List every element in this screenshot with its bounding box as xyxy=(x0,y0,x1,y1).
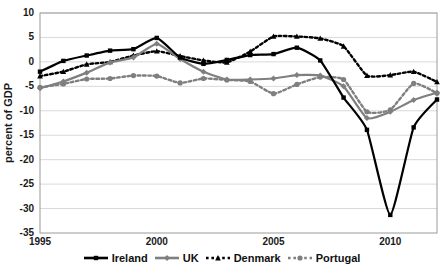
data-point-marker xyxy=(61,59,65,63)
data-point-marker xyxy=(154,73,159,78)
data-point-marker xyxy=(178,55,182,59)
legend-swatch-denmark xyxy=(205,252,231,264)
y-axis-tick-label: -5 xyxy=(0,81,34,91)
legend-swatch-portugal xyxy=(287,252,313,264)
data-point-marker xyxy=(435,97,439,101)
data-point-marker xyxy=(93,256,97,260)
data-point-marker xyxy=(85,53,89,57)
x-axis-tick-label: 2010 xyxy=(360,236,420,247)
y-axis-tick-label: 10 xyxy=(0,8,34,18)
x-axis-tick-label: 2005 xyxy=(244,236,304,247)
data-point-marker xyxy=(107,76,112,81)
data-point-marker xyxy=(365,128,369,132)
data-point-marker xyxy=(201,62,205,66)
data-point-marker xyxy=(364,109,369,114)
y-axis-tick-label: 0 xyxy=(0,57,34,67)
data-point-marker xyxy=(248,53,252,57)
data-point-marker xyxy=(341,77,346,82)
plot-background xyxy=(40,13,437,233)
y-axis-title: percent of GDP xyxy=(2,58,14,188)
data-point-marker xyxy=(38,69,42,73)
data-point-marker xyxy=(155,36,159,40)
data-point-marker xyxy=(178,80,183,85)
data-point-marker xyxy=(411,81,416,86)
data-point-marker xyxy=(341,95,345,99)
data-point-marker xyxy=(271,91,276,96)
x-axis-tick-label: 2000 xyxy=(127,236,187,247)
data-point-marker xyxy=(271,52,275,56)
legend-label-portugal: Portugal xyxy=(316,252,361,264)
data-point-marker xyxy=(201,76,206,81)
data-point-marker xyxy=(84,76,89,81)
legend-item-portugal[interactable]: Portugal xyxy=(287,252,361,264)
chart-figure: percent of GDP 1050-5-10-15-20-25-30-35 … xyxy=(0,0,443,276)
y-axis-tick-label: -10 xyxy=(0,106,34,116)
legend-label-uk: UK xyxy=(183,252,199,264)
data-point-marker xyxy=(108,48,112,52)
legend-swatch-uk xyxy=(154,252,180,264)
legend-item-denmark[interactable]: Denmark xyxy=(205,252,281,264)
legend-label-ireland: Ireland xyxy=(112,252,148,264)
y-axis-tick-label: -30 xyxy=(0,204,34,214)
y-axis-tick-label: 5 xyxy=(0,32,34,42)
data-point-marker xyxy=(131,73,136,78)
y-axis-tick-label: -15 xyxy=(0,130,34,140)
legend-swatch-ireland xyxy=(83,252,109,264)
y-axis-title-wrap: percent of GDP xyxy=(0,60,16,190)
data-point-marker xyxy=(131,47,135,51)
y-axis-tick-label: -20 xyxy=(0,155,34,165)
y-axis-tick-label: -25 xyxy=(0,179,34,189)
data-point-marker xyxy=(295,46,299,50)
data-point-marker xyxy=(297,255,302,260)
legend-item-uk[interactable]: UK xyxy=(154,252,199,264)
data-point-marker xyxy=(411,125,415,129)
legend-label-denmark: Denmark xyxy=(234,252,281,264)
data-point-marker xyxy=(215,255,221,260)
x-axis-tick-label: 1995 xyxy=(10,236,70,247)
data-point-marker xyxy=(318,58,322,62)
plot-area xyxy=(0,0,443,276)
data-point-marker xyxy=(388,213,392,217)
data-point-marker xyxy=(164,255,170,261)
chart-legend: IrelandUKDenmarkPortugal xyxy=(0,252,443,264)
legend-item-ireland[interactable]: Ireland xyxy=(83,252,148,264)
data-point-marker xyxy=(294,82,299,87)
data-point-marker xyxy=(225,58,229,62)
